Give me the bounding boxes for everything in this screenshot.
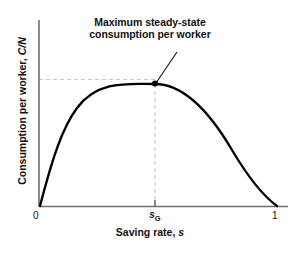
maximum-point-marker — [152, 81, 158, 87]
annotation-line-1: Maximum steady-state — [0, 17, 300, 29]
x-axis-label-text: Saving rate, — [116, 226, 178, 238]
annotation-leader-line — [156, 52, 177, 83]
annotation-line-2: consumption per worker — [0, 29, 300, 41]
x-axis-label: Saving rate, s — [0, 227, 300, 239]
consumption-curve — [40, 84, 277, 206]
x-tick-label-0: 0 — [33, 210, 39, 221]
y-axis-label-symbol: C/N — [16, 37, 28, 55]
y-axis-label-text: Consumption per worker, — [16, 55, 28, 185]
y-axis-label: Consumption per worker, C/N — [17, 11, 29, 211]
y-axis-label-rotator: Consumption per worker, C/N — [17, 11, 33, 211]
maximum-annotation: Maximum steady-state consumption per wor… — [0, 17, 300, 41]
x-tick-sg-subscript: G — [155, 214, 161, 223]
x-axis-label-symbol: s — [178, 226, 184, 238]
x-tick-label-1: 1 — [272, 210, 278, 221]
chart-figure: Maximum steady-state consumption per wor… — [0, 0, 300, 253]
x-tick-label-sg: sG — [140, 209, 170, 223]
